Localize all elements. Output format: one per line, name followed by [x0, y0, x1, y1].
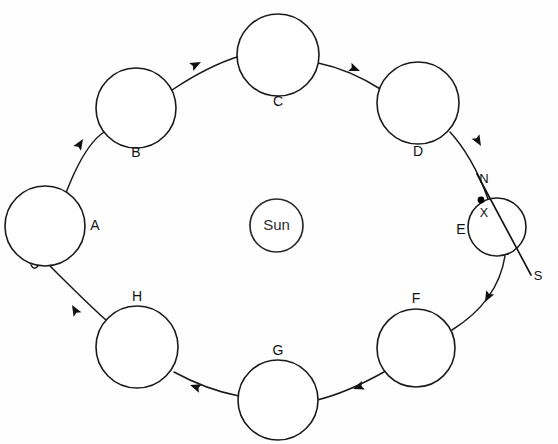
arrowhead-b-c: [189, 58, 203, 71]
position-a: A: [5, 186, 100, 266]
position-h-label: H: [132, 288, 142, 304]
orbit-diagram-canvas: A B C D N S X E F G: [0, 0, 558, 444]
orbit-segment-g-h: [174, 372, 239, 396]
position-b: B: [96, 68, 176, 160]
orbit-segment-e-f: [452, 256, 505, 330]
position-e: N S X E: [456, 171, 542, 283]
position-b-label: B: [131, 144, 140, 160]
orbit-segment-c-d: [318, 63, 382, 90]
position-e-circle: [468, 198, 526, 256]
arrowhead-d-e: [472, 134, 485, 148]
position-c-circle: [237, 14, 319, 96]
orbit-segment-d-e: [450, 132, 488, 199]
position-f-circle: [377, 309, 455, 387]
sun: Sun: [250, 199, 303, 252]
location-x-dot: [478, 197, 485, 204]
position-c-label: C: [273, 93, 283, 109]
orbit-diagram: A B C D N S X E F G: [0, 0, 558, 444]
position-d: D: [377, 62, 459, 159]
position-f-label: F: [412, 290, 421, 306]
position-h: H: [96, 288, 178, 388]
orbit-segment-b-c: [172, 56, 240, 90]
arrowhead-a-b: [73, 137, 86, 151]
position-f: F: [377, 290, 455, 387]
location-x-label: X: [480, 206, 489, 220]
position-g-circle: [238, 360, 318, 440]
north-pole-label: N: [479, 171, 488, 186]
position-d-label: D: [413, 143, 423, 159]
orbit-segment-f-g: [317, 372, 384, 400]
arrowhead-h-a: [68, 303, 81, 317]
position-a-circle: [5, 186, 85, 266]
position-d-circle: [377, 62, 459, 144]
position-h-circle: [96, 306, 178, 388]
position-g: G: [238, 342, 318, 440]
south-pole-label: S: [534, 268, 543, 283]
position-b-circle: [96, 68, 176, 148]
position-a-label: A: [90, 217, 100, 233]
sun-label: Sun: [263, 216, 290, 233]
position-g-label: G: [273, 342, 284, 358]
position-c: C: [237, 14, 319, 109]
position-e-label: E: [456, 221, 465, 237]
